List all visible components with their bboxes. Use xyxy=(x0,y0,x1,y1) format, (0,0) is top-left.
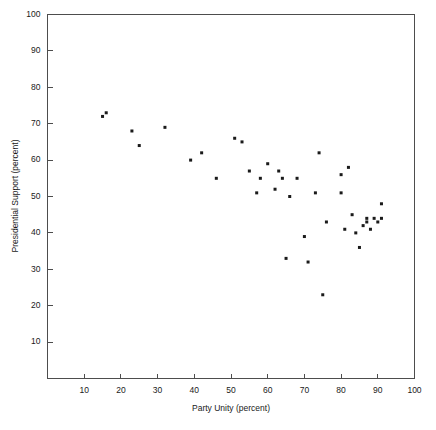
plot-border xyxy=(48,15,415,379)
data-point xyxy=(138,144,141,147)
data-point xyxy=(321,293,324,296)
axes-frame xyxy=(48,15,415,379)
data-point xyxy=(380,202,383,205)
x-tick-label: 70 xyxy=(300,385,310,395)
x-tick-label: 20 xyxy=(116,385,126,395)
y-axis-label: Presidential Support (percent) xyxy=(10,139,20,252)
data-point xyxy=(296,177,299,180)
axis-ticks xyxy=(48,15,415,379)
data-point xyxy=(318,151,321,154)
y-tick-label: 30 xyxy=(31,264,41,274)
data-point xyxy=(340,173,343,176)
data-point xyxy=(351,213,354,216)
data-point xyxy=(314,191,317,194)
x-axis-label: Party Unity (percent) xyxy=(192,403,270,413)
data-point xyxy=(248,170,251,173)
x-tick-label: 30 xyxy=(153,385,163,395)
data-point xyxy=(303,235,306,238)
data-point xyxy=(189,159,192,162)
x-tick-label: 10 xyxy=(79,385,89,395)
data-point xyxy=(343,228,346,231)
data-point xyxy=(215,177,218,180)
data-point xyxy=(163,126,166,129)
x-tick-label: 90 xyxy=(373,385,383,395)
data-point xyxy=(259,177,262,180)
x-tick-label: 50 xyxy=(226,385,236,395)
y-tick-label: 90 xyxy=(31,45,41,55)
data-point xyxy=(354,231,357,234)
y-tick-label: 40 xyxy=(31,227,41,237)
data-point xyxy=(105,111,108,114)
data-point xyxy=(101,115,104,118)
plot-canvas: 1020304050607080901001020304050607080901… xyxy=(0,0,436,430)
data-point xyxy=(373,217,376,220)
y-tick-label: 70 xyxy=(31,118,41,128)
data-point xyxy=(200,151,203,154)
data-point xyxy=(281,177,284,180)
y-tick-label: 100 xyxy=(26,9,40,19)
data-point xyxy=(365,217,368,220)
y-tick-label: 60 xyxy=(31,154,41,164)
scatter-plot-figure: 1020304050607080901001020304050607080901… xyxy=(0,0,436,430)
data-point xyxy=(325,220,328,223)
data-point xyxy=(288,195,291,198)
data-point xyxy=(376,220,379,223)
data-point xyxy=(233,137,236,140)
y-tick-label: 50 xyxy=(31,191,41,201)
data-point xyxy=(255,191,258,194)
y-tick-label: 80 xyxy=(31,82,41,92)
y-tick-label: 10 xyxy=(31,336,41,346)
data-point xyxy=(277,170,280,173)
data-point xyxy=(369,228,372,231)
x-tick-label: 60 xyxy=(263,385,273,395)
data-point xyxy=(274,188,277,191)
data-point xyxy=(285,257,288,260)
data-point xyxy=(365,220,368,223)
data-point xyxy=(307,261,310,264)
data-point xyxy=(380,217,383,220)
data-point xyxy=(340,191,343,194)
x-tick-label: 40 xyxy=(190,385,200,395)
data-point xyxy=(130,129,133,132)
x-tick-label: 100 xyxy=(407,385,421,395)
data-point xyxy=(362,224,365,227)
y-tick-label: 20 xyxy=(31,300,41,310)
x-tick-label: 80 xyxy=(336,385,346,395)
data-points xyxy=(101,111,383,296)
axis-tick-labels: 1020304050607080901001020304050607080901… xyxy=(26,9,422,395)
data-point xyxy=(266,162,269,165)
data-point xyxy=(347,166,350,169)
data-point xyxy=(358,246,361,249)
data-point xyxy=(241,140,244,143)
